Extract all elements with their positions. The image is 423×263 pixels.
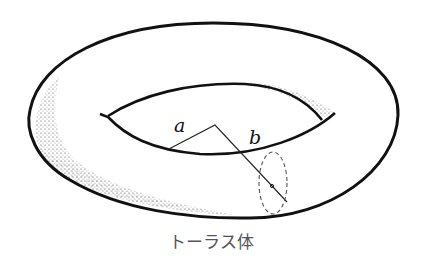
- inner-hole-lower-edge: [100, 113, 335, 154]
- label-b: b: [249, 126, 261, 148]
- label-a: a: [174, 114, 185, 136]
- inner-hole-upper-edge: [108, 84, 322, 120]
- cross-section-circle: [259, 152, 287, 214]
- torus-diagram: a b: [0, 0, 423, 263]
- inner-shading: [250, 82, 335, 118]
- outer-ring-outline: [29, 23, 398, 218]
- figure-caption: トーラス体: [0, 228, 423, 253]
- major-radius-line: [167, 125, 287, 202]
